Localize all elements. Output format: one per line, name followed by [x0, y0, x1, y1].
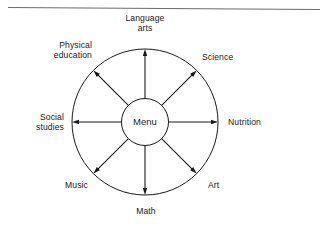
- spoke-music: [98, 139, 129, 170]
- node-label-art: Art: [208, 180, 268, 190]
- arrow-head-language-arts: [143, 49, 147, 56]
- node-label-nutrition: Nutrition: [228, 117, 318, 127]
- spoke-art: [162, 139, 193, 170]
- arrow-head-math: [143, 188, 147, 195]
- node-label-social-studies: Socialstudies: [2, 112, 64, 133]
- node-label-music: Music: [28, 180, 88, 190]
- spoke-physical-education: [98, 75, 129, 106]
- node-label-language-arts: Languagearts: [96, 13, 194, 34]
- arrow-head-social-studies: [72, 120, 79, 124]
- node-label-math: Math: [116, 206, 176, 216]
- node-label-physical-education: Physicaleducation: [8, 40, 92, 61]
- diagram-page: Menu Languagearts Science Nutrition Art …: [0, 0, 326, 231]
- node-label-science: Science: [202, 52, 282, 62]
- arrow-head-nutrition: [211, 120, 218, 124]
- hub-label: Menu: [133, 116, 157, 127]
- spoke-science: [162, 75, 193, 106]
